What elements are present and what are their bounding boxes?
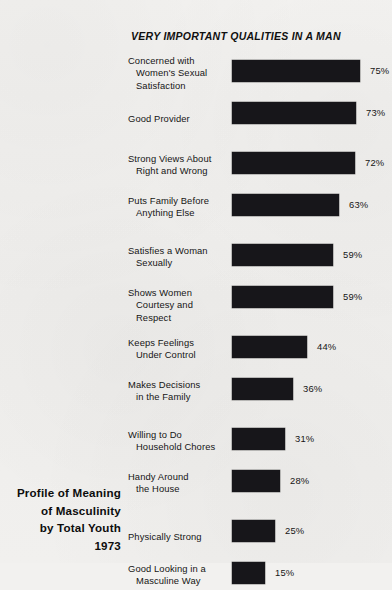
bar-category-label-line: Puts Family Before	[0, 195, 222, 207]
bar-row: Puts Family BeforeAnything Else63%	[0, 192, 392, 234]
bar-category-label-line: Keeps Feelings	[0, 337, 222, 349]
bar-category-label-line: in the Family	[0, 391, 222, 403]
bar	[232, 244, 333, 266]
bar	[232, 286, 333, 308]
bar-row: Makes Decisionsin the Family36%	[0, 376, 392, 418]
bar-row: Good Provider73%	[0, 100, 392, 142]
bar-category-label: Puts Family BeforeAnything Else	[0, 194, 222, 220]
chart-caption-line: of Masculinity	[0, 502, 121, 520]
bar-value-label: 75%	[370, 65, 389, 76]
bar-value-label: 72%	[365, 157, 384, 168]
bar-row: Good Looking in aMasculine Way15%	[0, 560, 392, 590]
bar-category-label: Strong Views AboutRight and Wrong	[0, 152, 222, 178]
bar-row: Willing to DoHousehold Chores31%	[0, 426, 392, 468]
bar-category-label-line: Good Provider	[0, 113, 222, 125]
chart-title: VERY IMPORTANT QUALITIES IN A MAN	[131, 30, 341, 42]
bar-category-label: Willing to DoHousehold Chores	[0, 428, 222, 454]
bar-category-label-line: Satisfaction	[0, 80, 222, 92]
bar-row: Keeps FeelingsUnder Control44%	[0, 334, 392, 376]
bar	[232, 336, 307, 358]
bar-row: Shows WomenCourtesy and Respect59%	[0, 284, 392, 326]
bar-category-label: Makes Decisionsin the Family	[0, 378, 222, 404]
bar-category-label-line: Handy Around	[0, 471, 222, 483]
bar-category-label: Concerned withWomen's SexualSatisfaction	[0, 55, 222, 92]
bar-value-label: 25%	[285, 525, 304, 536]
bar-category-label-line: Willing to Do	[0, 429, 222, 441]
bar-value-label: 63%	[349, 199, 368, 210]
bar-category-label-line: Courtesy and Respect	[0, 299, 222, 324]
bar	[232, 152, 355, 174]
bar-category-label-line: Good Looking in a	[0, 563, 222, 575]
bar	[232, 428, 285, 450]
bar-value-label: 31%	[295, 433, 314, 444]
bar-category-label: Good Looking in aMasculine Way	[0, 562, 222, 588]
bar-value-label: 59%	[343, 249, 362, 260]
bar-category-label-line: Strong Views About	[0, 153, 222, 165]
bar-category-label: Keeps FeelingsUnder Control	[0, 336, 222, 362]
bar-value-label: 36%	[303, 383, 322, 394]
bar-row: Concerned withWomen's SexualSatisfaction…	[0, 58, 392, 100]
bar-value-label: 44%	[317, 341, 336, 352]
bar-category-label-line: Under Control	[0, 349, 222, 361]
bar-category-label: Shows WomenCourtesy and Respect	[0, 286, 222, 324]
bar-value-label: 73%	[366, 107, 385, 118]
chart-caption-line: 1973	[0, 537, 121, 555]
bar	[232, 378, 293, 400]
bar-category-label-line: Household Chores	[0, 441, 222, 453]
bar-category-label-line: Concerned with	[0, 55, 222, 67]
chart-caption-line: by Total Youth	[0, 519, 121, 537]
bar	[232, 194, 339, 216]
bar-category-label-line: Women's Sexual	[0, 67, 222, 79]
bar-category-label-line: Makes Decisions	[0, 379, 222, 391]
bar	[232, 102, 356, 124]
bar	[232, 520, 275, 542]
bar	[232, 562, 265, 584]
bar	[232, 60, 360, 82]
bar-value-label: 15%	[275, 567, 294, 578]
bar-category-label-line: Right and Wrong	[0, 165, 222, 177]
bar-category-label-line: Anything Else	[0, 207, 222, 219]
bar-category-label: Satisfies a WomanSexually	[0, 244, 222, 270]
bar-row: Satisfies a WomanSexually59%	[0, 242, 392, 284]
bar-value-label: 59%	[343, 291, 362, 302]
bar-category-label-line: Sexually	[0, 257, 222, 269]
chart-caption-line: Profile of Meaning	[0, 484, 121, 502]
bar-category-label-line: Shows Women	[0, 287, 222, 299]
bar-category-label-line: Satisfies a Woman	[0, 245, 222, 257]
chart-caption: Profile of Meaningof Masculinityby Total…	[0, 484, 121, 554]
bar-value-label: 28%	[290, 475, 309, 486]
bar-category-label-line: Masculine Way	[0, 575, 222, 587]
bar	[232, 470, 280, 492]
bar-category-label: Good Provider	[0, 107, 222, 125]
bar-row: Strong Views AboutRight and Wrong72%	[0, 150, 392, 192]
